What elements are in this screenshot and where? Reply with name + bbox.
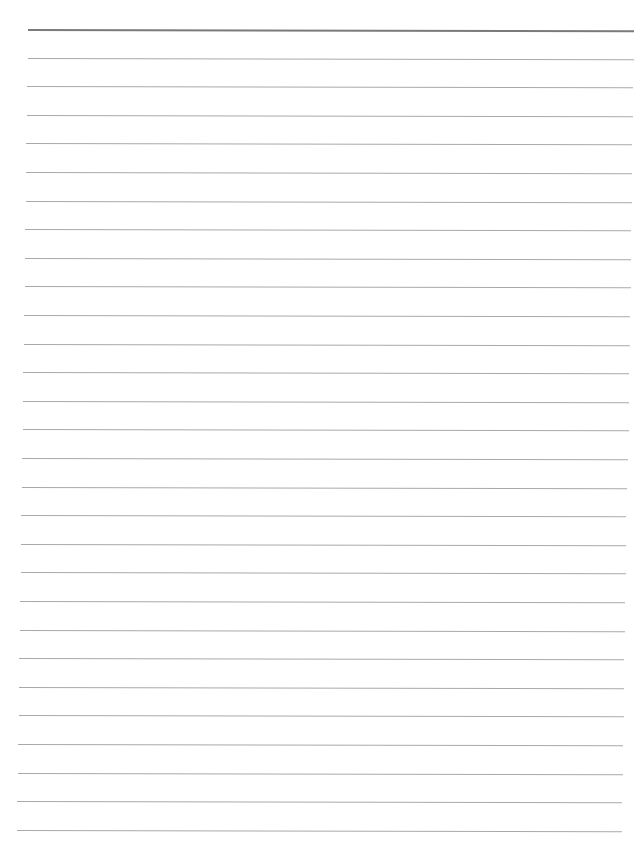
lined-paper-page	[0, 0, 639, 842]
ruled-line	[28, 58, 634, 60]
ruled-line	[19, 658, 624, 660]
ruled-line	[23, 372, 629, 374]
ruled-line	[24, 315, 630, 317]
ruled-line	[18, 773, 623, 775]
ruled-line	[20, 572, 625, 574]
ruled-line	[24, 286, 630, 288]
header-rule-line	[28, 29, 634, 32]
ruled-line	[21, 544, 626, 546]
ruled-line	[26, 143, 632, 145]
ruled-line	[24, 344, 630, 346]
ruled-line	[17, 801, 622, 803]
ruled-line	[22, 487, 627, 489]
ruled-line	[23, 401, 629, 403]
ruled-line	[25, 229, 631, 231]
ruled-line	[25, 258, 631, 260]
ruled-line	[22, 429, 628, 431]
ruled-line	[26, 172, 632, 174]
ruled-line	[19, 715, 624, 717]
ruled-line	[20, 630, 625, 632]
ruled-line	[19, 687, 624, 689]
ruled-line	[21, 515, 626, 517]
ruled-line	[22, 458, 628, 460]
ruled-line	[17, 830, 622, 832]
ruled-line	[20, 601, 625, 603]
ruled-line	[18, 744, 623, 746]
ruled-line	[27, 86, 633, 88]
ruled-line	[26, 201, 632, 203]
ruled-line	[27, 115, 633, 117]
